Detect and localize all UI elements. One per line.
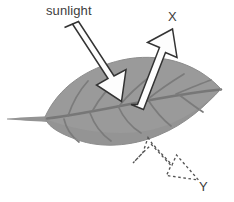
petiole (7, 116, 48, 122)
diagram-canvas (0, 0, 234, 202)
leaf-light-diagram: sunlight X Y (0, 0, 234, 202)
y-arrow-shape (133, 138, 199, 181)
y-arrow (133, 138, 199, 181)
y-label: Y (199, 180, 208, 193)
sunlight-label: sunlight (46, 4, 92, 17)
x-label: X (168, 10, 177, 23)
leaf-group (7, 57, 221, 145)
